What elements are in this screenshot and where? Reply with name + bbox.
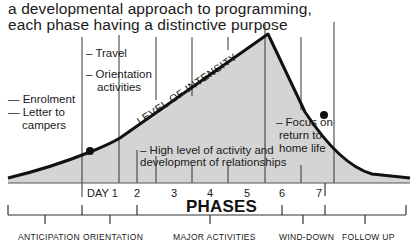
annotation-focus-3: home life bbox=[279, 142, 326, 155]
day-label-1: DAY 1 bbox=[87, 187, 118, 199]
annotation-letter-1: — Letter to bbox=[8, 106, 65, 119]
phase-major-activities: MAJOR ACTIVITIES bbox=[173, 232, 256, 242]
phase-orientation: ORIENTATION bbox=[83, 232, 143, 242]
day-label-2: 2 bbox=[134, 187, 140, 199]
phase-anticipation: ANTICIPATION bbox=[18, 232, 80, 242]
annotation-high-2: development of relationships bbox=[140, 156, 286, 169]
phase-follow-up: FOLLOW UP bbox=[342, 232, 395, 242]
annotation-focus-1: – Focus on bbox=[276, 116, 333, 129]
axis-title: PHASES bbox=[186, 197, 257, 217]
annotation-enrolment: — Enrolment bbox=[8, 93, 75, 106]
day-label-3: 3 bbox=[171, 187, 177, 199]
annotation-orientation-2: activities bbox=[97, 81, 141, 94]
annotation-focus-2: return to bbox=[279, 129, 322, 142]
phase-wind-down: WIND-DOWN bbox=[279, 232, 334, 242]
annotation-letter-2: campers bbox=[22, 119, 66, 132]
orientation-marker bbox=[86, 147, 94, 155]
annotation-travel: – Travel bbox=[86, 47, 127, 60]
annotation-high-1: – High level of activity and bbox=[140, 144, 274, 157]
day-label-6: 6 bbox=[279, 187, 285, 199]
day-label-7: 7 bbox=[316, 187, 322, 199]
annotation-orientation-1: – Orientation bbox=[86, 68, 152, 81]
